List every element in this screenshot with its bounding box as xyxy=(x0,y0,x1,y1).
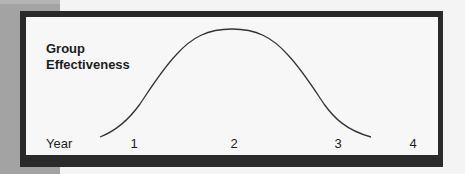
x-tick-3: 3 xyxy=(334,137,341,151)
x-axis-label: Year xyxy=(46,137,72,151)
x-tick-2: 2 xyxy=(230,137,237,151)
bell-curve-path xyxy=(100,29,371,137)
x-tick-1: 1 xyxy=(130,137,137,151)
x-tick-4: 4 xyxy=(409,137,416,151)
